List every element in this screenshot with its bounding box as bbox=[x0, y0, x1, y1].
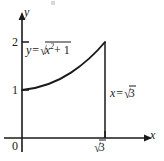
y-axis-label: y bbox=[24, 6, 29, 18]
curve-eq-equals: = bbox=[31, 43, 40, 57]
radical-sqrt3-tick: √3 bbox=[94, 140, 106, 153]
radicand: 3 bbox=[129, 86, 136, 99]
radical-sqrt3-vline: √3 bbox=[124, 86, 136, 99]
vertical-line-equation-label: x= √3 bbox=[110, 86, 136, 99]
scan-artifact-speck bbox=[51, 1, 55, 5]
curve-equation-label: y= √x2+ 1 bbox=[26, 42, 71, 56]
origin-label: 0 bbox=[12, 140, 18, 152]
x-tick-label-sqrt3: √3 bbox=[94, 140, 106, 153]
y-tick-label-2: 2 bbox=[12, 36, 18, 48]
radicand-tail: + 1 bbox=[54, 43, 70, 57]
vline-eq-equals: = bbox=[115, 86, 124, 100]
radicand: 3 bbox=[99, 140, 106, 153]
y-tick-label-1: 1 bbox=[12, 84, 18, 96]
graph-canvas bbox=[0, 0, 164, 161]
radical-curve: √x2+ 1 bbox=[40, 42, 71, 56]
x-axis-label: x bbox=[150, 129, 155, 141]
math-figure: y x 2 1 0 √3 y= √x2+ 1 x= √3 bbox=[0, 0, 164, 161]
radicand: x2+ 1 bbox=[45, 42, 71, 56]
